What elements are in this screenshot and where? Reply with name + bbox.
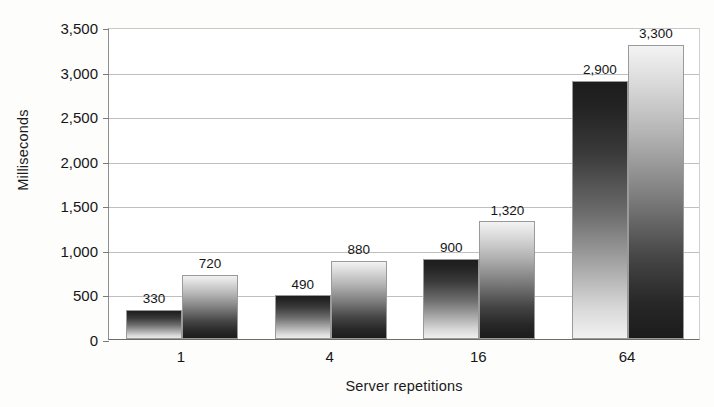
bar-value-label: 3,300 (618, 27, 694, 41)
bar-value-label: 1,320 (469, 204, 545, 218)
bar (182, 275, 238, 339)
plot-area: 3307204908809001,3202,9003,300 (108, 28, 700, 340)
bar-value-label: 900 (413, 241, 489, 255)
y-axis-tick (103, 341, 109, 342)
x-axis-tick-label: 4 (254, 348, 406, 365)
bar (628, 45, 684, 339)
bar-value-label: 2,900 (562, 63, 638, 77)
bar (572, 81, 628, 340)
x-axis-tick-label: 1 (105, 348, 257, 365)
bar-value-label: 880 (321, 243, 397, 257)
x-axis-tick-label: 16 (402, 348, 554, 365)
x-axis-title: Server repetitions (108, 378, 700, 394)
bar (331, 261, 387, 339)
bar-value-label: 490 (265, 278, 341, 292)
y-axis-tick-labels: 05001,0001,5002,0002,5003,0003,500 (36, 0, 98, 407)
bar (423, 259, 479, 339)
y-axis-tick-label: 2,500 (36, 110, 98, 125)
bar-value-label: 330 (116, 292, 192, 306)
y-axis-tick-label: 2,000 (36, 154, 98, 169)
bar (126, 310, 182, 339)
y-axis-tick-label: 3,500 (36, 21, 98, 36)
y-axis-title: Milliseconds (15, 65, 31, 235)
y-axis-tick-label: 1,000 (36, 243, 98, 258)
y-axis-tick-label: 0 (36, 333, 98, 348)
bar (479, 221, 535, 339)
bar (275, 295, 331, 339)
bar-chart: Milliseconds 05001,0001,5002,0002,5003,0… (0, 0, 714, 407)
x-axis-tick-label: 64 (551, 348, 703, 365)
x-axis-tick-labels: 141664 (108, 348, 700, 370)
bar-value-label: 720 (172, 257, 248, 271)
bars-layer: 3307204908809001,3202,9003,300 (109, 29, 699, 339)
y-axis-tick-label: 1,500 (36, 199, 98, 214)
y-axis-tick-label: 500 (36, 288, 98, 303)
y-axis-tick-label: 3,000 (36, 65, 98, 80)
